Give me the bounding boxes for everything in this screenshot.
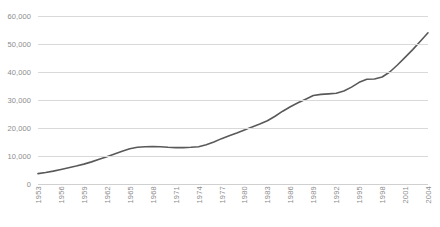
y-tick-label: 60,000 [7, 12, 31, 21]
x-tick-label: 1974 [195, 186, 204, 204]
gridline-40000 [38, 72, 428, 73]
line-chart: 60,00050,00040,00030,00020,00010,0000 19… [0, 0, 440, 227]
x-tick-label: 2001 [401, 186, 410, 204]
data-line [38, 33, 428, 174]
y-tick-label: 30,000 [7, 96, 31, 105]
plot-area [38, 16, 428, 184]
x-tick-label: 1998 [378, 186, 387, 204]
y-tick-label: 50,000 [7, 40, 31, 49]
x-tick-label: 1959 [80, 186, 89, 204]
x-tick-label: 1986 [286, 186, 295, 204]
x-tick-label: 1962 [103, 186, 112, 204]
x-tick-label: 1977 [218, 186, 227, 204]
x-tick-label: 1980 [240, 186, 249, 204]
x-tick-label: 1983 [263, 186, 272, 204]
y-tick-label: 10,000 [7, 152, 31, 161]
x-tick-label: 1965 [126, 186, 135, 204]
gridline-10000 [38, 156, 428, 157]
x-tick-label: 1953 [34, 186, 43, 204]
gridline-50000 [38, 44, 428, 45]
gridline-0 [38, 184, 428, 185]
x-tick-label: 1956 [57, 186, 66, 204]
x-tick-label: 1995 [355, 186, 364, 204]
y-axis: 60,00050,00040,00030,00020,00010,0000 [0, 0, 36, 227]
x-tick-label: 2004 [424, 186, 433, 204]
y-tick-label: 0 [27, 180, 31, 189]
x-tick-label: 1992 [332, 186, 341, 204]
gridline-60000 [38, 16, 428, 17]
x-tick-label: 1971 [172, 186, 181, 204]
x-tick-label: 1968 [149, 186, 158, 204]
x-tick-label: 1989 [309, 186, 318, 204]
x-axis: 1953195619591962196519681971197419771980… [38, 186, 428, 227]
gridline-20000 [38, 128, 428, 129]
gridline-30000 [38, 100, 428, 101]
y-tick-label: 40,000 [7, 68, 31, 77]
y-tick-label: 20,000 [7, 124, 31, 133]
